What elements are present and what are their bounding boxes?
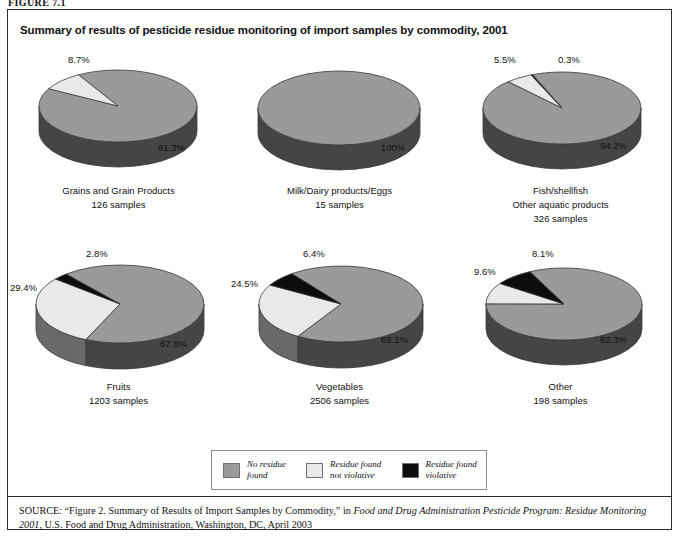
pie-chart-grid: 91.3%8.7%Grains and Grain Products126 sa… bbox=[8, 46, 671, 438]
pie-stage: 82.3%9.6%8.1% bbox=[450, 242, 671, 382]
pie-chart-svg bbox=[8, 242, 229, 382]
legend-swatch-residue-violative bbox=[402, 463, 419, 478]
chart-sample-count: 1203 samples bbox=[8, 394, 229, 408]
pie-slice-label: 29.4% bbox=[10, 282, 37, 293]
chart-title: Fish/shellfish bbox=[450, 184, 671, 198]
pie-slice-label: 6.4% bbox=[303, 248, 325, 259]
legend-swatch-residue-not-violative bbox=[306, 463, 323, 478]
pie-slice-label: 82.3% bbox=[600, 334, 627, 345]
pie-slice-label: 94.2% bbox=[600, 140, 627, 151]
pie-slice-label: 67.8% bbox=[160, 338, 187, 349]
pie-slice-label: 2.8% bbox=[86, 248, 108, 259]
pie-chart-cell: 82.3%9.6%8.1%Other198 samples bbox=[450, 242, 671, 438]
pie-stage: 100% bbox=[229, 46, 450, 186]
chart-legend: No residuefoundResidue foundnot violativ… bbox=[211, 450, 487, 490]
source-prefix: SOURCE: bbox=[19, 505, 62, 516]
pie-stage: 69.1%24.5%6.4% bbox=[229, 242, 450, 382]
pie-chart-cell: 69.1%24.5%6.4%Vegetables2506 samples bbox=[229, 242, 450, 438]
pie-slice-label: 91.3% bbox=[158, 142, 185, 153]
chart-sample-count: 2506 samples bbox=[229, 394, 450, 408]
pie-slice-label: 100% bbox=[381, 142, 405, 153]
source-text-2: , U.S. Food and Drug Administration, Was… bbox=[39, 519, 312, 530]
source-divider bbox=[8, 496, 671, 497]
chart-title: Other aquatic products bbox=[450, 198, 671, 212]
source-note: SOURCE: “Figure 2. Summary of Results of… bbox=[19, 504, 663, 531]
legend-item: Residue foundviolative bbox=[391, 459, 486, 481]
pie-stage: 91.3%8.7% bbox=[8, 46, 229, 186]
pie-stage: 94.2%5.5%0.3% bbox=[450, 46, 671, 186]
pie-stage: 67.8%29.4%2.8% bbox=[8, 242, 229, 382]
pie-slice-label: 9.6% bbox=[474, 266, 496, 277]
chart-title: Grains and Grain Products bbox=[8, 184, 229, 198]
pie-slice bbox=[258, 71, 420, 145]
pie-chart-svg bbox=[8, 46, 229, 186]
chart-sample-count: 198 samples bbox=[450, 394, 671, 408]
legend-label: Residue foundnot violative bbox=[330, 459, 381, 481]
pie-chart-cell: 91.3%8.7%Grains and Grain Products126 sa… bbox=[8, 46, 229, 242]
chart-title: Fruits bbox=[8, 380, 229, 394]
chart-title: Milk/Dairy products/Eggs bbox=[229, 184, 450, 198]
legend-item: No residuefound bbox=[212, 459, 295, 481]
chart-caption: Fish/shellfishOther aquatic products326 … bbox=[450, 184, 671, 226]
pie-slice-label: 8.1% bbox=[532, 248, 554, 259]
chart-sample-count: 326 samples bbox=[450, 212, 671, 226]
pie-slice-label: 5.5% bbox=[494, 54, 516, 65]
chart-caption: Grains and Grain Products126 samples bbox=[8, 184, 229, 212]
chart-sample-count: 126 samples bbox=[8, 198, 229, 212]
chart-caption: Vegetables2506 samples bbox=[229, 380, 450, 408]
figure-panel: Summary of results of pesticide residue … bbox=[7, 9, 672, 530]
pie-chart-svg bbox=[229, 46, 450, 186]
pie-chart-svg bbox=[450, 242, 671, 382]
chart-title: Vegetables bbox=[229, 380, 450, 394]
pie-slice-label: 0.3% bbox=[558, 54, 580, 65]
chart-caption: Fruits1203 samples bbox=[8, 380, 229, 408]
pie-chart-row-2: 67.8%29.4%2.8%Fruits1203 samples69.1%24.… bbox=[8, 242, 671, 438]
chart-sample-count: 15 samples bbox=[229, 198, 450, 212]
chart-caption: Other198 samples bbox=[450, 380, 671, 408]
pie-slice-label: 24.5% bbox=[231, 278, 258, 289]
pie-chart-cell: 67.8%29.4%2.8%Fruits1203 samples bbox=[8, 242, 229, 438]
legend-label: No residuefound bbox=[247, 459, 286, 481]
pie-chart-svg bbox=[450, 46, 671, 186]
figure-number: FIGURE 7.1 bbox=[8, 0, 66, 8]
legend-label: Residue foundviolative bbox=[426, 459, 477, 481]
pie-chart-cell: 94.2%5.5%0.3%Fish/shellfishOther aquatic… bbox=[450, 46, 671, 242]
legend-swatch-no-residue-found bbox=[223, 463, 240, 478]
chart-caption: Milk/Dairy products/Eggs15 samples bbox=[229, 184, 450, 212]
pie-slice-label: 69.1% bbox=[381, 334, 408, 345]
pie-slice-label: 8.7% bbox=[68, 54, 90, 65]
page-title: Summary of results of pesticide residue … bbox=[20, 24, 508, 36]
pie-chart-cell: 100%Milk/Dairy products/Eggs15 samples bbox=[229, 46, 450, 242]
pie-chart-row-1: 91.3%8.7%Grains and Grain Products126 sa… bbox=[8, 46, 671, 242]
legend-item: Residue foundnot violative bbox=[295, 459, 390, 481]
source-text-1: “Figure 2. Summary of Results of Import … bbox=[62, 505, 353, 516]
chart-title: Other bbox=[450, 380, 671, 394]
pie-chart-svg bbox=[229, 242, 450, 382]
